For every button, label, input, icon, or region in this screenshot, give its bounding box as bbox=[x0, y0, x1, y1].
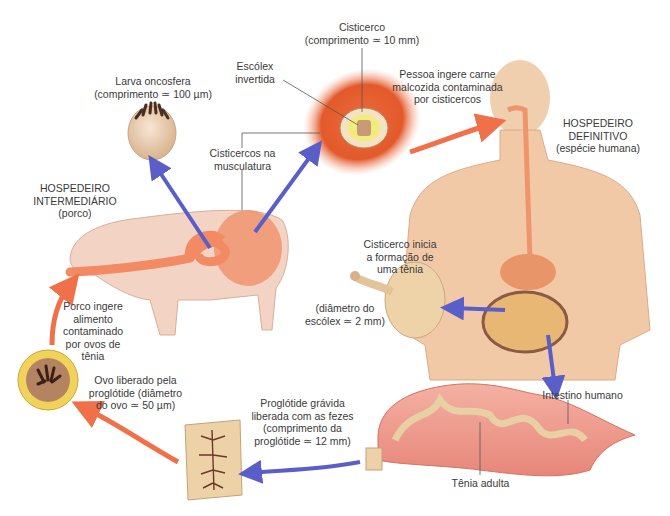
arrow-to-scolex bbox=[452, 308, 505, 310]
label-hospedeiro-definitivo: HOSPEDEIRODEFINITIVO(espécie humana) bbox=[553, 117, 643, 155]
label-pessoa-ingere: Pessoa ingere carnemalcozida contaminada… bbox=[385, 68, 510, 106]
proglottid-icon bbox=[185, 420, 242, 500]
label-proglotide: Proglótide grávidaliberada com as fezes(… bbox=[245, 397, 360, 447]
label-diametro-escolex: (diâmetro doescólex ≃ 2 mm) bbox=[300, 302, 390, 327]
label-escolex: Escólexinvertida bbox=[225, 60, 285, 85]
human-illustration bbox=[400, 60, 650, 380]
label-musculatura: Cisticercos namusculatura bbox=[205, 147, 280, 172]
label-cisticerco-inicia: Cisticerco iniciaa formação deuma tênia bbox=[360, 238, 440, 276]
arrow-to-egg bbox=[85, 408, 178, 462]
label-cisticerco: Cisticerco(comprimento ≃ 10 mm) bbox=[297, 21, 427, 46]
label-larva: Larva oncosfera(comprimento ≃ 100 µm) bbox=[78, 75, 228, 100]
label-ovo-liberado: Ovo liberado pelaproglótide (diâmetrodo … bbox=[88, 374, 183, 412]
label-porco-ingere: Porco ingerealimentocontaminadopor ovos … bbox=[58, 300, 128, 363]
larva-oncosphere-icon bbox=[128, 103, 176, 160]
label-hospedeiro-intermediario: HOSPEDEIROINTERMEDIÁRIO(porco) bbox=[25, 182, 125, 220]
arrow-to-proglottid bbox=[250, 462, 360, 473]
label-intestino: Intestino humano bbox=[540, 389, 625, 402]
label-tenia-adulta: Tênia adulta bbox=[448, 477, 513, 490]
arrow-to-human bbox=[410, 124, 492, 152]
